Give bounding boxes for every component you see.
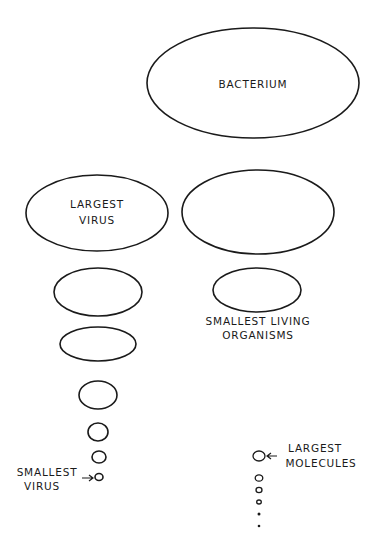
largest-virus-label-line1: LARGEST: [70, 198, 124, 210]
smallest-living-ellipse: [213, 268, 301, 312]
virus-ellipse: [54, 268, 142, 316]
virus-ellipse: [88, 423, 108, 441]
organism-large-ellipse: [182, 170, 334, 254]
virus-ellipse: [92, 451, 106, 463]
largest-virus-ellipse: [26, 175, 168, 251]
virus-ellipse: [60, 327, 136, 361]
arrow-left-icon: [267, 453, 277, 459]
molecule-ellipse: [257, 500, 262, 504]
largest-molecules-label-line2: MOLECULES: [285, 457, 356, 469]
molecule-dot: [258, 525, 261, 528]
arrow-right-icon: [82, 475, 93, 481]
molecule-ellipse: [255, 475, 263, 481]
molecule-ellipse: [256, 487, 262, 492]
smallest-virus-group: SMALLEST VIRUS: [17, 466, 93, 492]
smallest-living-label-line1: SMALLEST LIVING: [206, 315, 311, 327]
size-comparison-diagram: BACTERIUM LARGEST VIRUS SMALLEST LIVING …: [0, 0, 392, 538]
smallest-virus-ellipse: [95, 474, 103, 481]
smallest-virus-label-line1: SMALLEST: [17, 466, 78, 478]
largest-molecules-label-line1: LARGEST: [288, 442, 342, 454]
largest-virus-group: LARGEST VIRUS: [26, 175, 168, 251]
smallest-virus-label-line2: VIRUS: [24, 480, 60, 492]
molecule-dot: [258, 513, 261, 516]
largest-molecule-ellipse: [253, 451, 265, 461]
smallest-living-group: SMALLEST LIVING ORGANISMS: [206, 268, 311, 341]
largest-virus-label-line2: VIRUS: [79, 214, 115, 226]
bacterium-label: BACTERIUM: [219, 78, 288, 90]
virus-series: [54, 268, 142, 481]
largest-molecules-group: LARGEST MOLECULES: [267, 442, 357, 469]
smallest-living-label-line2: ORGANISMS: [222, 329, 293, 341]
virus-ellipse: [79, 381, 117, 409]
bacterium-group: BACTERIUM: [147, 28, 359, 138]
molecule-series: [253, 451, 265, 527]
